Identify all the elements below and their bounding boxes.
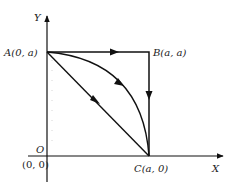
point-A-label: A(0, a) xyxy=(3,47,38,58)
origin-coords: (0, 0) xyxy=(22,159,49,170)
arrow-diagonal-icon xyxy=(90,95,100,104)
origin-label: O xyxy=(36,144,44,155)
point-B-coords: (a, a) xyxy=(160,47,186,58)
point-A-coords: (0, a) xyxy=(11,47,38,58)
point-C-label: C(a, 0) xyxy=(134,163,168,174)
point-A-name: A xyxy=(3,47,11,58)
x-axis-label: X xyxy=(211,163,220,174)
path-diagonal-A-C xyxy=(47,52,149,156)
arrow-AB-icon xyxy=(110,49,119,56)
point-C-coords: (a, 0) xyxy=(142,163,169,174)
path-diagram: Y X A(0, a) B(a, a) C(a, 0) O (0, 0) xyxy=(0,0,231,193)
arrow-BC-icon xyxy=(146,91,153,100)
y-axis-label: Y xyxy=(34,12,42,23)
point-B-name: B xyxy=(152,47,160,58)
arrow-arc-icon xyxy=(114,78,124,86)
point-B-label: B(a, a) xyxy=(152,47,187,58)
